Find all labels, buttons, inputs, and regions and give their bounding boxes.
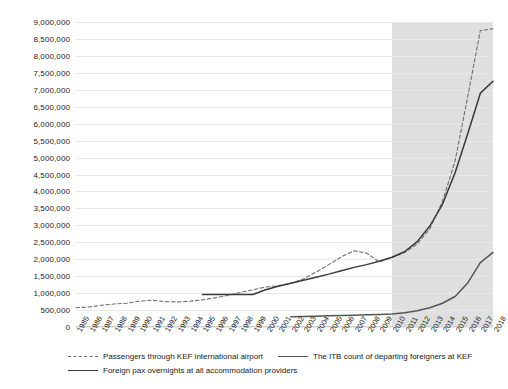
y-tick-label: 2,000,000 xyxy=(6,255,70,264)
y-tick-label: 5,500,000 xyxy=(6,136,70,145)
y-tick-label: 1,500,000 xyxy=(6,272,70,281)
legend-label: The ITB count of departing foreigners at… xyxy=(313,352,472,361)
chart-legend: Passengers through KEF international air… xyxy=(0,352,504,389)
y-tick-label: 0 xyxy=(6,323,70,332)
legend-label: Passengers through KEF international air… xyxy=(103,352,263,361)
y-tick-label: 9,000,000 xyxy=(6,18,70,27)
y-tick-label: 4,500,000 xyxy=(6,170,70,179)
y-tick-label: 2,500,000 xyxy=(6,238,70,247)
legend-label: Foreign pax overnights at all accommodat… xyxy=(103,366,297,375)
y-tick-label: 4,000,000 xyxy=(6,187,70,196)
y-tick-label: 1,000,000 xyxy=(6,289,70,298)
y-tick-label: 6,000,000 xyxy=(6,119,70,128)
y-tick-label: 500,000 xyxy=(6,306,70,315)
y-tick-label: 3,500,000 xyxy=(6,204,70,213)
series-layer xyxy=(76,22,493,327)
series-paths xyxy=(76,29,493,317)
legend-item-itb-count: The ITB count of departing foreigners at… xyxy=(278,352,472,361)
y-tick-label: 6,500,000 xyxy=(6,102,70,111)
series-line xyxy=(76,29,493,308)
y-tick-label: 5,000,000 xyxy=(6,153,70,162)
dashed-line-swatch xyxy=(68,356,98,357)
plot-area xyxy=(76,22,493,327)
y-tick-label: 8,500,000 xyxy=(6,34,70,43)
y-tick-label: 7,500,000 xyxy=(6,68,70,77)
x-tick-label: 2018 xyxy=(492,315,508,334)
series-line xyxy=(202,81,493,294)
y-tick-label: 3,000,000 xyxy=(6,221,70,230)
legend-item-passengers-kef: Passengers through KEF international air… xyxy=(68,352,263,361)
y-axis-tick-labels: 0500,0001,000,0001,500,0002,000,0002,500… xyxy=(0,22,70,327)
series-line xyxy=(291,252,493,316)
y-tick-label: 7,000,000 xyxy=(6,85,70,94)
solid-line-swatch xyxy=(68,370,98,371)
legend-item-foreign-overnights: Foreign pax overnights at all accommodat… xyxy=(68,366,297,375)
y-tick-label: 8,000,000 xyxy=(6,51,70,60)
solid-line-swatch xyxy=(278,356,308,357)
